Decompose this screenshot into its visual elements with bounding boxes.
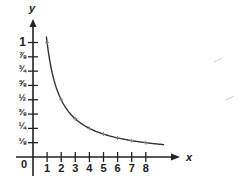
y-tick-label: ⅛ bbox=[4, 137, 26, 146]
x-tick-label: 4 bbox=[82, 163, 96, 174]
plot-area bbox=[0, 0, 244, 179]
y-axis-label: y bbox=[29, 3, 35, 14]
y-tick-label: ⅜ bbox=[4, 108, 26, 117]
y-tick-label: ½ bbox=[4, 94, 26, 103]
x-tick-label: 2 bbox=[54, 163, 68, 174]
y-tick-label: 1 bbox=[4, 36, 26, 48]
y-tick-label: ¼ bbox=[4, 122, 26, 131]
curve-y-equals-1-over-x bbox=[46, 36, 164, 144]
stray-marks bbox=[214, 58, 234, 100]
x-axis-label: x bbox=[186, 152, 192, 163]
x-tick-label: 7 bbox=[125, 163, 139, 174]
data-point-markers bbox=[45, 41, 148, 145]
axes bbox=[16, 19, 180, 176]
x-tick-label: 1 bbox=[40, 163, 54, 174]
x-tick-label: 3 bbox=[68, 163, 82, 174]
y-tick-label: ¾ bbox=[4, 65, 26, 74]
x-tick-label: 5 bbox=[97, 163, 111, 174]
y-tick-label: ⅞ bbox=[4, 51, 26, 60]
x-tick-label: 8 bbox=[139, 163, 153, 174]
x-tick-label: 6 bbox=[111, 163, 125, 174]
origin-label: 0 bbox=[21, 159, 27, 170]
reciprocal-function-chart: y x 0 ⅛¼⅜½⅝¾⅞1 12345678 bbox=[0, 0, 244, 179]
y-tick-label: ⅝ bbox=[4, 79, 26, 88]
